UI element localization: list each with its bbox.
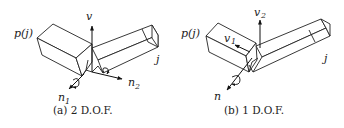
label-parent-a: p(j) (14, 27, 33, 40)
label-v1-b: v (224, 32, 231, 45)
label-v2-b: v (254, 6, 261, 19)
n1-rotation-icon (73, 79, 79, 88)
joint-diagram: p(j) j v n 1 n 2 p(j) j v (0, 0, 344, 128)
panel-a-drawing (37, 24, 158, 89)
caption-a: (a) 2 D.O.F. (53, 104, 113, 116)
parent-link-box (206, 23, 257, 72)
label-parent-b: p(j) (181, 27, 200, 40)
n2-axis-arrow (92, 72, 122, 79)
label-child-b: j (321, 52, 328, 65)
label-child-a: j (153, 53, 160, 66)
label-v1-sub-b: 1 (231, 37, 236, 46)
label-v-a: v (86, 10, 93, 23)
label-n-b: n (214, 90, 221, 103)
parent-link-box (37, 24, 92, 76)
n-rotation-icon (232, 76, 240, 85)
caption-b: (b) 1 D.O.F. (224, 104, 284, 116)
child-link-box (253, 19, 330, 72)
panel-b-drawing (206, 19, 330, 90)
child-link-box (92, 25, 158, 73)
label-v2-sub-b: 2 (260, 11, 266, 20)
label-n2-sub-a: 2 (134, 82, 140, 91)
